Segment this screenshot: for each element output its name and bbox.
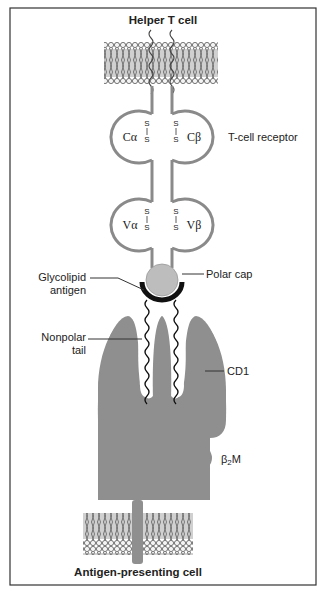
- glycolipid-leader: [90, 278, 144, 290]
- svg-text:S: S: [144, 119, 149, 128]
- t-cell-receptor: [111, 86, 213, 268]
- v-alpha-label: Vα: [123, 218, 139, 232]
- nonpolar-tail-label-line1: Nonpolar: [41, 331, 86, 343]
- svg-text:S: S: [144, 135, 149, 144]
- v-beta-label: Vβ: [187, 218, 202, 232]
- svg-text:S: S: [144, 223, 149, 232]
- cd1-label: CD1: [227, 365, 249, 377]
- svg-text:S: S: [173, 135, 178, 144]
- disulfide-bonds: S S S S S S S S: [144, 119, 178, 232]
- antigen-presenting-cell-title: Antigen-presenting cell: [74, 566, 202, 578]
- beta2m-label: β2M: [221, 453, 241, 467]
- apc-membrane: [83, 508, 193, 564]
- tcr-cd1-diagram: Helper T cell Cα Cβ Vα Vβ S S S S S: [0, 0, 326, 594]
- svg-text:S: S: [173, 223, 178, 232]
- glycolipid-label-line1: Glycolipid: [38, 271, 86, 283]
- glycolipid-label-line2: antigen: [50, 284, 86, 296]
- svg-text:S: S: [173, 119, 178, 128]
- polar-cap: [146, 264, 178, 296]
- c-beta-label: Cβ: [187, 130, 201, 144]
- helper-t-cell-title: Helper T cell: [129, 14, 197, 26]
- nonpolar-tail-label-line2: tail: [72, 344, 86, 356]
- beta2-microglobulin: [176, 446, 212, 470]
- t-cell-receptor-label: T-cell receptor: [228, 131, 298, 143]
- svg-text:S: S: [173, 207, 178, 216]
- polar-cap-label: Polar cap: [206, 268, 252, 280]
- t-cell-membrane: [104, 42, 218, 84]
- c-alpha-label: Cα: [123, 130, 138, 144]
- svg-text:S: S: [144, 207, 149, 216]
